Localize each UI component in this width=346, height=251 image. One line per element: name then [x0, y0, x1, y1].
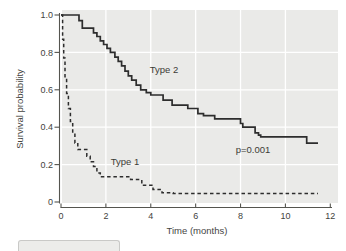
x-tick-label: 12	[325, 211, 335, 221]
x-tick-label: 6	[193, 211, 198, 221]
y-tick-label: 0.4	[40, 122, 53, 132]
x-axis-title: Time (months)	[167, 225, 228, 236]
y-tick-label: 0.8	[40, 48, 53, 58]
x-tick-label: 4	[148, 211, 153, 221]
y-tick-label: 0.2	[40, 160, 53, 170]
x-tick-label: 2	[103, 211, 108, 221]
p-value-annotation: p=0.001	[236, 144, 271, 155]
y-tick-label: 1.0	[40, 10, 53, 20]
curve-label-type-1: Type 1	[111, 156, 140, 167]
y-tick-label: 0.6	[40, 85, 53, 95]
y-axis-title: Survival probability	[14, 69, 25, 149]
cropped-caption-bar	[18, 240, 120, 251]
curve-label-type-2: Type 2	[150, 64, 179, 75]
x-tick-label: 8	[238, 211, 243, 221]
y-tick-label: 0	[48, 197, 53, 207]
x-tick-label: 10	[280, 211, 290, 221]
x-tick-label: 0	[58, 211, 63, 221]
plot-area	[62, 10, 338, 203]
